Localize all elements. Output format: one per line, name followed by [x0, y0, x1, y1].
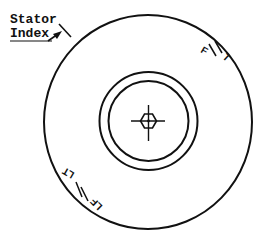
lf-mark-label: LF [88, 196, 104, 212]
f-mark-label: F [199, 44, 210, 57]
f-tick [209, 44, 216, 56]
stator-index-tick [59, 24, 71, 37]
lf-tick [81, 187, 88, 201]
ft-marks: F T [199, 41, 233, 64]
index-arrow-icon [48, 31, 62, 41]
stator-diagram: Stator Index F T LT LF [0, 0, 266, 239]
stator-label: Stator [10, 12, 57, 27]
hub-icon [131, 105, 165, 141]
index-label: Index [10, 26, 49, 41]
lt-mark-label: LT [61, 166, 76, 181]
lt-tick [76, 182, 82, 197]
